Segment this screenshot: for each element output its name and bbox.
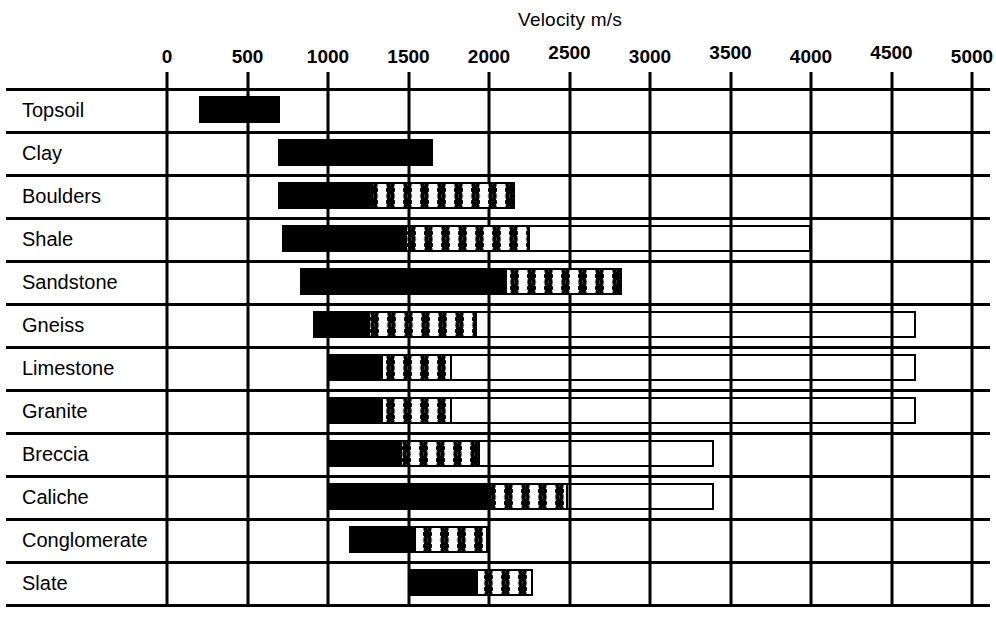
x-axis-tick-mark [568,72,571,88]
x-axis-tick-label: 2500 [548,42,590,64]
row-label: Slate [22,571,68,594]
table-row: Topsoil [6,88,990,131]
table-row: Sandstone [6,260,990,303]
table-row: Boulders [6,174,990,217]
row-label: Topsoil [22,98,84,121]
row-label: Clay [22,141,62,164]
row-divider [6,604,990,607]
table-row: Gneiss [6,303,990,346]
velocity-chart: Velocity m/s 050010001500200025003000350… [0,0,996,641]
row-label: Gneiss [22,313,84,336]
x-axis-tick-mark [890,72,893,88]
table-row: Granite [6,389,990,432]
x-axis-tick-label: 3500 [709,42,751,64]
row-label: Granite [22,399,88,422]
table-row: Limestone [6,346,990,389]
x-axis-tick-label: 4500 [870,42,912,64]
row-label: Breccia [22,442,89,465]
chart-grid: TopsoilClayBouldersShaleSandstoneGneissL… [0,88,996,604]
table-row: Clay [6,131,990,174]
x-axis-tick-mark [246,72,249,88]
x-axis-tick-label: 5000 [951,46,993,68]
row-label: Shale [22,227,73,250]
x-axis-ticks [0,72,996,88]
table-row: Conglomerate [6,518,990,561]
x-axis-tick-mark [649,72,652,88]
row-label: Sandstone [22,270,118,293]
x-axis-tick-label: 1500 [387,46,429,68]
x-axis-tick-mark [166,72,169,88]
x-axis-tick-label: 500 [232,46,264,68]
x-axis-tick-mark [488,72,491,88]
x-axis-tick-mark [729,72,732,88]
table-row: Shale [6,217,990,260]
x-axis-tick-label: 0 [162,46,173,68]
x-axis-tick-mark [810,72,813,88]
x-axis-tick-label: 4000 [790,46,832,68]
table-row: Breccia [6,432,990,475]
x-axis-tick-mark [971,72,974,88]
x-axis-tick-label: 2000 [468,46,510,68]
row-label: Caliche [22,485,89,508]
x-axis-tick-label: 1000 [307,46,349,68]
x-axis-tick-labels: 0500100015002000250030003500400045005000 [0,46,996,70]
row-label: Conglomerate [22,528,148,551]
x-axis-tick-mark [407,72,410,88]
x-axis-tick-label: 3000 [629,46,671,68]
table-row: Caliche [6,475,990,518]
chart-title-text: Velocity m/s [518,9,622,30]
chart-title: Velocity m/s [0,9,996,31]
row-label: Boulders [22,184,101,207]
x-axis-tick-mark [327,72,330,88]
row-label: Limestone [22,356,114,379]
table-row: Slate [6,561,990,604]
